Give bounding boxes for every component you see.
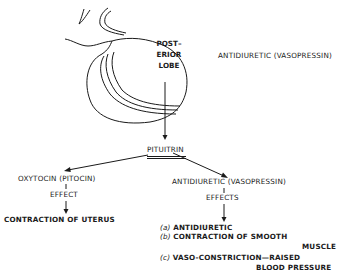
arrowhead-effect-icon [64, 209, 69, 214]
effect-b-continuation: MUSCLE [302, 242, 336, 251]
lobe-label-line-3: LOBE [147, 60, 191, 71]
arrowhead-down-icon [163, 135, 168, 140]
effect-text: VASO-CONSTRICTION—RAISED [173, 253, 301, 262]
uterus-contraction-label: CONTRACTION OF UTERUS [4, 215, 115, 224]
effect-marker: (c) [160, 253, 170, 262]
effects-label: EFFECTS [206, 193, 239, 202]
arrow-left-line [68, 155, 148, 170]
arrowhead-effects-icon [222, 217, 227, 222]
upper-stem-line [65, 39, 112, 46]
effect-item-c: (c) VASO-CONSTRICTION—RAISED [160, 253, 300, 262]
effect-c-continuation: BLOOD PRESSURE [256, 263, 331, 272]
effect-label: EFFECT [50, 190, 78, 199]
pituitrin-underline-1 [147, 156, 186, 157]
stalk-line-2 [105, 11, 126, 33]
arrowhead-left-icon [64, 167, 71, 172]
stalk-left-line [79, 9, 90, 24]
effect-item-a: (a) ANTIDIURETIC [160, 223, 232, 232]
lobe-label-line-2: ERIOR [147, 49, 191, 60]
vasopressin-label: ANTIDIURETIC (VASOPRESSIN) [172, 177, 286, 186]
lobe-label-line-1: POST– [147, 38, 191, 49]
pituitrin-underline-2 [147, 158, 186, 159]
oxytocin-label: OXYTOCIN (PITOCIN) [18, 174, 96, 183]
hormone-pituitrin: PITUITRIN [147, 145, 184, 154]
effect-text: CONTRACTION OF SMOOTH [173, 232, 287, 241]
posterior-lobe-label: POST– ERIOR LOBE [147, 38, 191, 71]
side-label-vasopressin: ANTIDIURETIC (VASOPRESSIN) [218, 51, 332, 60]
stalk-line-1 [100, 8, 124, 35]
effect-marker: (a) [160, 223, 171, 232]
effect-item-b: (b) CONTRACTION OF SMOOTH [160, 232, 287, 241]
effect-marker: (b) [160, 232, 171, 241]
effect-text: ANTIDIURETIC [173, 223, 232, 232]
